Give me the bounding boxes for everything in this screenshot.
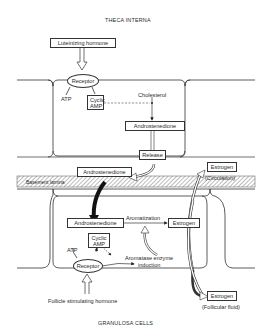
induction-label: induction (138, 263, 160, 269)
granulosa-androstenedione-box: Androstenedione (67, 218, 124, 228)
camp-line2: AMP (90, 103, 101, 109)
theca-receptor: Receptor (67, 74, 99, 88)
theca-androstenedione-box: Androstenedione (125, 121, 185, 131)
cholesterol-label: Cholesterol (138, 93, 166, 99)
fsh-label: Follicle stimulating hormone (48, 299, 117, 305)
theca-atp-label: ATP (61, 97, 71, 103)
granulosa-cyclic-amp-box: Cyclic AMP (88, 233, 110, 248)
between-androstenedione-box: Androstenedione (77, 167, 132, 177)
camp-line2: AMP (91, 241, 107, 247)
estrogen-circulation-box: Estrogen (207, 162, 237, 172)
granulosa-receptor: Receptor (73, 259, 103, 273)
granulosa-atp-label: ATP (67, 248, 77, 254)
luteinizing-hormone-box: Luteinizing hormone (50, 38, 116, 48)
aromatization-label: Aromatization (126, 216, 160, 222)
aromatase-enzyme-label: Aromatase enzyme (125, 256, 173, 262)
theca-interna-title: THECA INTERNA (105, 18, 151, 23)
estrogen-follicular-box: Estrogen (207, 291, 237, 301)
granulosa-cells-title: GRANULOSA CELLS (98, 321, 153, 326)
basement-lamina-label: Basement lamina (26, 180, 65, 185)
follicular-fluid-label: (Follicular fluid) (202, 305, 240, 311)
circulation-label: (Circulation) (205, 176, 235, 182)
release-box: Release (139, 150, 166, 160)
theca-cyclic-amp-box: Cyclic AMP (87, 95, 104, 110)
granulosa-estrogen-box: Estrogen (168, 218, 200, 228)
